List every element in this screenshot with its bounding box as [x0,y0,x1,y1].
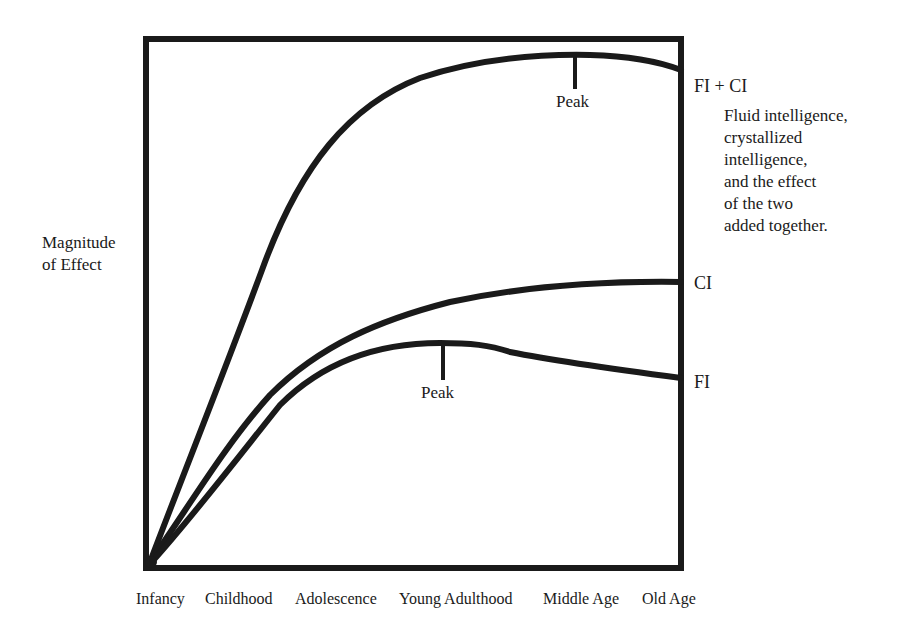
description-line: intelligence, [724,149,914,171]
description-line: Fluid intelligence, [724,105,914,127]
y-axis-label: Magnitude of Effect [42,232,116,276]
series-label-fi: FI [694,372,710,393]
description-line: added together. [724,215,914,237]
x-tick-adolescence: Adolescence [295,590,377,608]
curve-fi-plus-ci [150,55,681,562]
description-line: crystallized [724,127,914,149]
description-line: of the two [724,193,914,215]
description-line: and the effect [724,171,914,193]
peak-label-bottom: Peak [421,382,454,403]
x-tick-old-age: Old Age [642,590,696,608]
series-description: Fluid intelligence, crystallized intelli… [724,105,914,237]
plot-frame [146,39,681,568]
peak-label-top: Peak [556,91,589,112]
x-tick-infancy: Infancy [136,590,185,608]
x-tick-young-adulthood: Young Adulthood [399,590,513,608]
series-label-fi-ci: FI + CI [694,76,747,97]
curve-fi [150,343,681,564]
y-axis-label-line1: Magnitude [42,232,116,254]
chart-canvas [0,0,923,626]
x-tick-childhood: Childhood [205,590,273,608]
origin-point [145,556,157,568]
series-label-ci: CI [694,273,712,294]
x-tick-middle-age: Middle Age [543,590,619,608]
y-axis-label-line2: of Effect [42,254,116,276]
curve-ci [150,282,681,562]
